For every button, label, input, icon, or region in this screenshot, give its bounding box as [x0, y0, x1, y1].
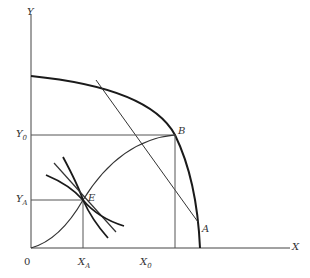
- xa-tick-label: XA: [78, 257, 90, 270]
- y-axis-label: Y: [27, 7, 34, 17]
- point-e-label: E: [88, 193, 95, 203]
- y0-tick-label: Y0: [16, 129, 27, 142]
- origin-label: 0: [24, 257, 30, 267]
- tangent-a-label: A: [202, 224, 209, 234]
- x-axis-label: X: [292, 242, 299, 252]
- diagram-canvas: [0, 0, 310, 278]
- ya-tick-label: YA: [16, 194, 28, 207]
- x0-tick-label: X0: [140, 257, 152, 270]
- price-line-e: [54, 163, 116, 232]
- point-b-label: B: [178, 126, 185, 136]
